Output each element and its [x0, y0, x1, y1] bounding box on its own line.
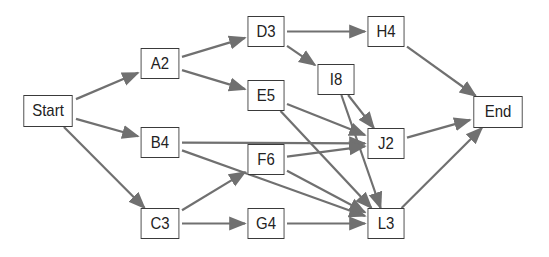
node-i8: I8: [318, 64, 355, 95]
node-g4: G4: [248, 208, 285, 239]
node-j2: J2: [368, 128, 405, 159]
edge-f6-to-j2: [287, 146, 365, 156]
node-h4: H4: [368, 16, 405, 47]
node-c3: C3: [141, 208, 180, 239]
edge-l3-to-end: [402, 128, 482, 208]
edge-start-to-a2: [76, 73, 138, 99]
node-e5: E5: [248, 80, 285, 111]
node-d3: D3: [248, 16, 285, 47]
node-start: Start: [23, 95, 72, 127]
node-end: End: [473, 96, 522, 128]
edge-group: [64, 32, 482, 224]
edge-a2-to-e5: [182, 70, 245, 89]
edge-d3-to-i8: [287, 46, 315, 65]
edge-h4-to-end: [407, 47, 476, 96]
edge-start-to-c3: [64, 127, 145, 208]
edge-start-to-b4: [76, 119, 138, 136]
edge-c3-to-f6: [182, 172, 245, 210]
edge-a2-to-d3: [182, 38, 245, 57]
edge-j2-to-end: [407, 120, 470, 138]
node-l3: L3: [368, 208, 405, 239]
node-a2: A2: [141, 48, 180, 79]
node-b4: B4: [141, 127, 180, 158]
edge-e5-to-l3: [281, 111, 372, 208]
node-f6: F6: [248, 144, 285, 175]
